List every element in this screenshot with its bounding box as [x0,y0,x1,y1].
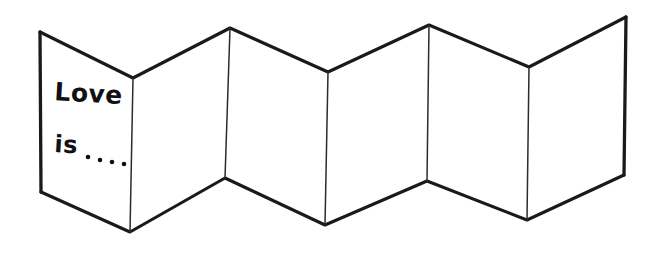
ellipsis-dot-3 [110,160,115,165]
ellipsis-dot-2 [98,158,103,163]
ellipsis-dot-1 [86,155,91,160]
illustration-canvas: Love is [0,0,658,255]
panel-face-1 [40,32,133,232]
panel-face-4 [325,25,429,225]
panel-face-3 [225,28,328,225]
card-left-edge [40,32,41,192]
ellipsis-dot-4 [122,162,127,167]
accordion-folded-card-drawing: Love is [0,0,658,255]
card-right-edge [624,17,626,175]
card-panel-faces [40,17,626,232]
panel-face-2 [130,28,230,232]
panel-face-5 [427,25,529,220]
panel-face-6 [527,17,626,220]
card-text-line-is: is [54,130,79,159]
card-text-line-love: Love [54,77,124,110]
